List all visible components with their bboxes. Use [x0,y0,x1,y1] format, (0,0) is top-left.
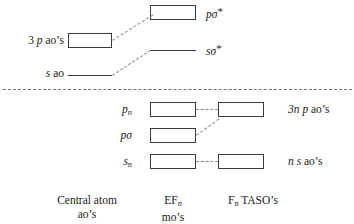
connector-s-n-to-taso-n-s [196,161,218,162]
label-p-sigma-antibonding: pσ* [206,6,223,20]
label-p-sigma-bonding: pσ [96,129,132,141]
connector-p-sigma-bonding-to-taso-3n-p [196,119,219,136]
label-s-n: sn [96,155,132,170]
caption-ef-n-line1: EFn [143,193,203,210]
connector-p-n-to-taso-3n-p [196,109,218,110]
connector-3p-to-p-sigma-antibonding [112,15,153,41]
caption-central-atom: Central atom ao’s [32,193,142,222]
level-box-s-n [150,154,196,169]
caption-fn-tasos: Fn TASO’s [203,193,303,210]
level-line-s-sigma-antibonding [150,50,196,51]
level-line-central-s-ao [68,75,112,76]
level-box-p-sigma-bonding [150,128,196,143]
caption-central-atom-line2: ao’s [32,207,142,221]
connector-s-ao-to-s-sigma-antibonding [112,50,151,76]
level-box-p-n [150,102,196,117]
caption-central-atom-line1: Central atom [32,193,142,207]
mo-energy-diagram: 3 p ao’s pσ* sσ* s ao pn 3n p ao’s pσ sn… [0,0,354,224]
caption-ef-n-line2: mo’s [143,210,203,224]
label-central-s-ao: s ao [4,67,64,79]
label-s-sigma-antibonding: sσ* [206,43,222,57]
label-central-3p-ao: 3 p ao’s [4,34,64,46]
label-p-n: pn [96,103,132,118]
label-taso-3n-p-ao: 3n p ao’s [288,103,330,115]
level-box-taso-n-s [218,154,264,169]
label-taso-n-s-ao: n s ao’s [288,155,323,167]
level-box-p-sigma-antibonding [150,5,196,20]
caption-ef-n-mos: EFn mo’s [143,193,203,224]
section-divider [3,89,352,90]
caption-fn-tasos-line1: Fn TASO’s [203,193,303,210]
level-box-taso-3n-p [218,102,264,117]
level-box-central-3p-ao [68,33,112,48]
